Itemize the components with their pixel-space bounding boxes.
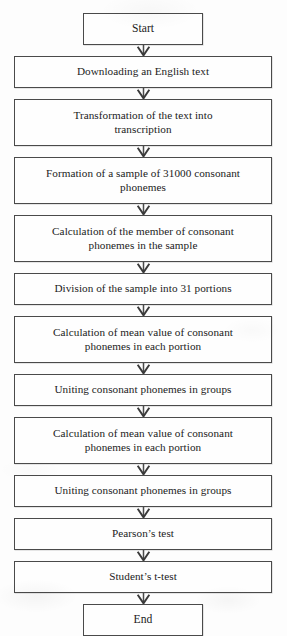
down-arrow-icon xyxy=(135,88,152,99)
flowchart-node-uniting-1: Uniting consonant phonemes in groups xyxy=(14,374,272,406)
flowchart-node-calc-mean-2: Calculation of mean value of consonant p… xyxy=(14,417,272,464)
down-arrow-icon xyxy=(135,305,152,316)
node-label: Pearson’s test xyxy=(112,527,174,540)
down-arrow-icon xyxy=(135,45,152,56)
down-arrow-icon xyxy=(135,406,152,417)
node-label: Uniting consonant phonemes in groups xyxy=(54,484,231,497)
flowchart-node-calc-mean-1: Calculation of mean value of consonant p… xyxy=(14,316,272,363)
node-label: Formation of a sample of 31000 consonant… xyxy=(46,167,240,193)
node-label: Calculation of the member of consonant p… xyxy=(52,225,234,251)
down-arrow-icon xyxy=(135,464,152,475)
node-label: Division of the sample into 31 portions xyxy=(54,282,231,295)
flowchart-node-start: Start xyxy=(83,13,203,45)
node-label: Downloading an English text xyxy=(77,65,209,78)
flowchart-node-download: Downloading an English text xyxy=(14,56,272,88)
node-label: Student’s t-test xyxy=(109,570,177,583)
flowchart-node-uniting-2: Uniting consonant phonemes in groups xyxy=(14,475,272,507)
down-arrow-icon xyxy=(135,593,152,604)
node-label: Calculation of mean value of consonant p… xyxy=(53,326,233,352)
down-arrow-icon xyxy=(135,507,152,518)
down-arrow-icon xyxy=(135,550,152,561)
node-label: Start xyxy=(132,22,154,35)
flowchart-node-formation: Formation of a sample of 31000 consonant… xyxy=(14,157,272,204)
node-label: Calculation of mean value of consonant p… xyxy=(53,427,233,453)
flowchart-node-student: Student’s t-test xyxy=(14,561,272,593)
node-label: Transformation of the text into transcri… xyxy=(73,109,212,135)
node-label: End xyxy=(134,613,153,626)
flowchart-node-division: Division of the sample into 31 portions xyxy=(14,273,272,305)
down-arrow-icon xyxy=(135,146,152,157)
node-label: Uniting consonant phonemes in groups xyxy=(54,383,231,396)
flowchart-node-end: End xyxy=(83,604,203,636)
down-arrow-icon xyxy=(135,204,152,215)
flowchart-node-calc-member: Calculation of the member of consonant p… xyxy=(14,215,272,262)
flowchart-node-pearson: Pearson’s test xyxy=(14,518,272,550)
down-arrow-icon xyxy=(135,262,152,273)
flowchart-node-transform: Transformation of the text into transcri… xyxy=(14,99,272,146)
down-arrow-icon xyxy=(135,363,152,374)
